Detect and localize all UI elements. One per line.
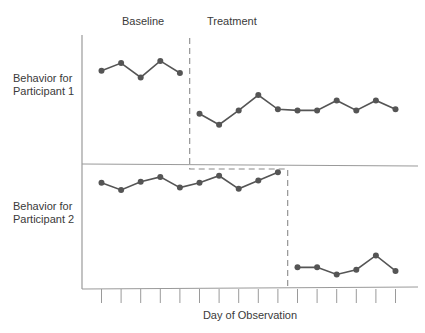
data-point — [275, 169, 281, 175]
data-point — [353, 107, 359, 113]
data-point — [314, 264, 320, 270]
data-point — [255, 177, 261, 183]
data-point — [393, 106, 399, 112]
data-point — [216, 173, 222, 179]
series-line — [102, 172, 278, 190]
data-point — [314, 107, 320, 113]
data-point — [236, 186, 242, 192]
data-series — [99, 58, 399, 278]
data-point — [157, 58, 163, 64]
panel-divider — [82, 164, 418, 166]
data-point — [353, 267, 359, 273]
data-point — [334, 271, 340, 277]
data-point — [236, 107, 242, 113]
data-point — [118, 187, 124, 193]
x-axis — [82, 287, 418, 289]
data-point — [138, 74, 144, 80]
data-point — [334, 98, 340, 104]
data-point — [373, 98, 379, 104]
phase-change-lines — [190, 38, 288, 286]
data-point — [295, 107, 301, 113]
data-point — [118, 60, 124, 66]
data-point — [197, 180, 203, 186]
data-point — [99, 68, 105, 74]
data-point — [393, 268, 399, 274]
data-point — [255, 92, 261, 98]
data-point — [373, 252, 379, 258]
data-point — [157, 174, 163, 180]
data-point — [138, 179, 144, 185]
data-point — [275, 106, 281, 112]
data-point — [177, 185, 183, 191]
data-point — [197, 111, 203, 117]
data-point — [177, 70, 183, 76]
phase-change-line — [190, 38, 288, 286]
data-point — [99, 180, 105, 186]
series-line — [298, 255, 396, 274]
chart-plot-area — [0, 0, 425, 333]
data-point — [295, 264, 301, 270]
data-point — [216, 122, 222, 128]
